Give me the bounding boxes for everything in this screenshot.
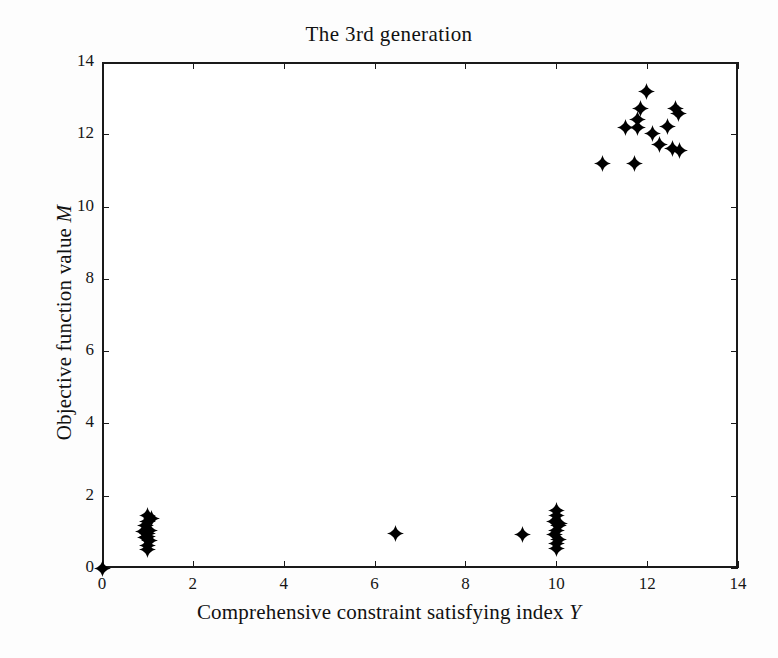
y-axis-tick-right <box>731 496 738 497</box>
data-point-marker <box>141 522 158 539</box>
data-point-marker <box>626 155 643 172</box>
data-point-marker <box>550 517 567 534</box>
data-point-marker <box>617 119 634 136</box>
data-point-marker <box>644 125 661 142</box>
plot-data-area <box>102 62 738 568</box>
data-point-marker <box>629 111 646 128</box>
x-axis-tick <box>647 561 648 568</box>
data-point-marker <box>548 522 565 539</box>
data-point-marker <box>139 528 156 545</box>
x-axis-tick-top <box>647 62 648 69</box>
data-point-marker <box>667 100 684 117</box>
x-axis-tick <box>284 561 285 568</box>
x-axis-tick <box>193 561 194 568</box>
y-axis-tick-label: 14 <box>58 51 94 71</box>
data-point-marker <box>629 119 646 136</box>
y-axis-tick <box>102 496 109 497</box>
x-axis-tick-label: 2 <box>173 574 213 594</box>
data-point-marker <box>548 535 565 552</box>
x-axis-tick <box>375 561 376 568</box>
x-axis-tick-label: 0 <box>82 574 122 594</box>
x-axis-tick-top <box>284 62 285 69</box>
x-axis-tick-label: 4 <box>264 574 304 594</box>
data-point-marker <box>139 537 156 554</box>
y-axis-tick-label: 8 <box>58 268 94 288</box>
x-axis-tick-top <box>465 62 466 69</box>
data-point-marker <box>594 155 611 172</box>
data-point-marker <box>139 525 156 542</box>
x-axis-tick-top <box>102 62 103 69</box>
y-axis-tick-label: 4 <box>58 412 94 432</box>
y-axis-tick-label: 12 <box>58 123 94 143</box>
x-axis-tick <box>465 561 466 568</box>
y-axis-tick <box>102 134 109 135</box>
x-axis-tick-top <box>193 62 194 69</box>
scatter-chart-figure: The 3rd generation Comprehensive constra… <box>0 0 778 658</box>
data-point-marker <box>143 510 160 527</box>
data-point-marker <box>137 517 154 534</box>
x-axis-tick-label: 14 <box>718 574 758 594</box>
x-axis-tick <box>738 561 739 568</box>
data-point-marker <box>514 526 531 543</box>
x-axis-tick-label: 12 <box>627 574 667 594</box>
data-point-marker <box>638 83 655 100</box>
y-axis-tick <box>102 568 109 569</box>
data-point-marker <box>135 523 152 540</box>
x-axis-label: Comprehensive constraint satisfying inde… <box>0 600 778 625</box>
x-axis-tick <box>556 561 557 568</box>
y-axis-tick <box>102 351 109 352</box>
data-point-marker <box>139 541 156 558</box>
x-axis-tick-label: 6 <box>355 574 395 594</box>
data-point-marker <box>548 507 565 524</box>
data-point-marker <box>546 526 563 543</box>
x-axis-tick-top <box>556 62 557 69</box>
x-axis-tick-top <box>738 62 739 69</box>
y-axis-tick-label: 6 <box>58 340 94 360</box>
y-axis-tick <box>102 423 109 424</box>
x-axis-tick-label: 8 <box>445 574 485 594</box>
y-axis-tick-right <box>731 279 738 280</box>
y-axis-tick-label: 2 <box>58 485 94 505</box>
x-axis-tick <box>102 561 103 568</box>
data-point-marker <box>651 136 668 153</box>
y-axis-tick-right <box>731 568 738 569</box>
y-axis-tick <box>102 62 109 63</box>
y-axis-tick-right <box>731 62 738 63</box>
data-point-marker <box>670 105 687 122</box>
chart-title: The 3rd generation <box>0 22 778 47</box>
data-point-marker <box>659 118 676 135</box>
x-axis-label-text: Comprehensive constraint satisfying inde… <box>197 600 564 624</box>
data-point-marker <box>551 515 568 532</box>
y-axis-tick-right <box>731 351 738 352</box>
x-axis-tick-label: 10 <box>536 574 576 594</box>
y-axis-tick-right <box>731 423 738 424</box>
data-point-marker <box>550 531 567 548</box>
y-axis-tick-right <box>731 134 738 135</box>
data-point-marker <box>139 513 156 530</box>
data-point-marker <box>664 140 681 157</box>
data-point-marker <box>387 525 404 542</box>
data-point-marker <box>671 142 688 159</box>
data-point-marker <box>546 513 563 530</box>
y-axis-tick-label: 10 <box>58 196 94 216</box>
y-axis-tick <box>102 207 109 208</box>
data-point-marker <box>548 540 565 557</box>
x-axis-tick-top <box>375 62 376 69</box>
data-point-marker <box>139 507 156 524</box>
data-point-marker <box>632 100 649 117</box>
y-axis-label-text: Objective function value <box>52 228 76 440</box>
data-point-marker <box>548 502 565 519</box>
y-axis-tick <box>102 279 109 280</box>
x-axis-label-symbol: Y <box>569 600 581 624</box>
y-axis-tick-right <box>731 207 738 208</box>
y-axis-tick-label: 0 <box>58 557 94 577</box>
data-point-marker <box>141 532 158 549</box>
data-point-marker <box>137 529 154 546</box>
